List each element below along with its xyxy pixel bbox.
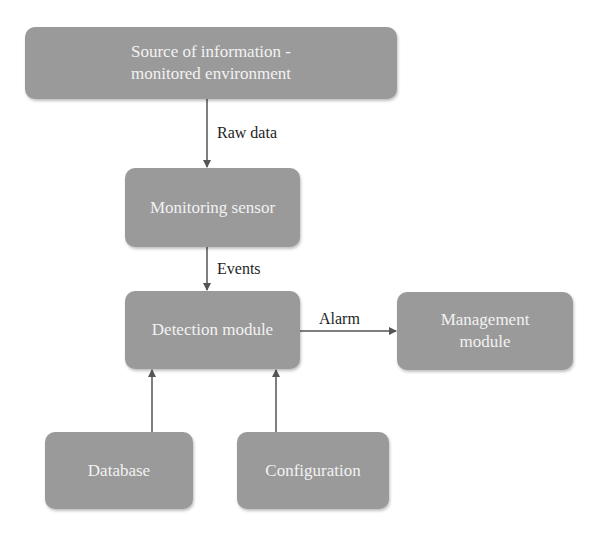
edge-label-alarm: Alarm [319, 310, 360, 328]
node-management-line1: Management [441, 309, 530, 331]
node-database-label: Database [88, 460, 150, 482]
node-management-module: Management module [397, 292, 573, 370]
node-configuration-label: Configuration [265, 460, 360, 482]
edge-label-raw-data: Raw data [217, 124, 277, 142]
node-management-line2: module [460, 331, 511, 353]
node-database: Database [45, 432, 193, 509]
edge-label-events: Events [217, 260, 261, 278]
node-detection-module: Detection module [125, 291, 300, 369]
node-sensor-label: Monitoring sensor [150, 197, 275, 219]
node-monitoring-sensor: Monitoring sensor [125, 168, 300, 247]
node-source-line2: monitored environment [131, 63, 291, 85]
node-detection-label: Detection module [152, 319, 273, 341]
node-source-line1: Source of information - [131, 41, 291, 63]
node-source-of-information: Source of information - monitored enviro… [25, 27, 397, 99]
node-configuration: Configuration [237, 432, 389, 509]
